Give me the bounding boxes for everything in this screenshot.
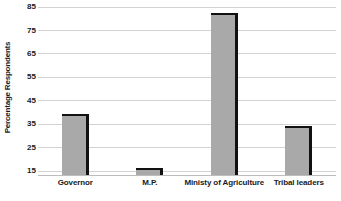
y-tick-label: 15 <box>27 167 36 175</box>
x-tick-label: Ministy of Agriculture <box>184 178 264 187</box>
plot-area <box>38 0 336 176</box>
y-tick-label: 45 <box>27 97 36 105</box>
x-tick-label: M.P. <box>142 178 157 187</box>
gridline <box>38 77 336 78</box>
axis-baseline <box>38 175 336 176</box>
y-axis-tick-labels: 1525354555657585 <box>14 0 38 180</box>
bar <box>211 13 238 175</box>
bar <box>62 114 89 175</box>
y-tick-label: 75 <box>27 27 36 35</box>
gridline <box>38 30 336 31</box>
y-tick-label: 65 <box>27 50 36 58</box>
bar <box>285 126 312 175</box>
x-tick-label: Tribal leaders <box>274 178 324 187</box>
y-tick-label: 85 <box>27 3 36 11</box>
gridline <box>38 7 336 8</box>
chart-figure: Percentage Respondents 1525354555657585 … <box>0 0 341 201</box>
y-axis-title: Percentage Respondents <box>4 42 13 134</box>
bar <box>136 168 163 175</box>
gridline <box>38 53 336 54</box>
x-axis-tick-labels: GovernorM.P.Ministy of AgricultureTribal… <box>38 178 336 196</box>
y-tick-label: 55 <box>27 73 36 81</box>
gridline <box>38 100 336 101</box>
y-tick-label: 25 <box>27 144 36 152</box>
x-tick-label: Governor <box>58 178 93 187</box>
y-tick-label: 35 <box>27 120 36 128</box>
